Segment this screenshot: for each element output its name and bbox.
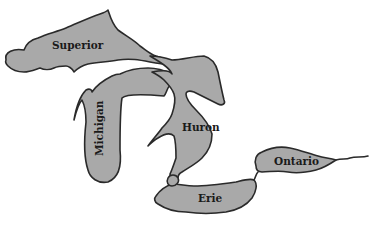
label-ontario: Ontario — [274, 155, 319, 167]
label-superior: Superior — [52, 39, 104, 51]
lake-huron — [148, 56, 225, 179]
label-michigan: Michigan — [93, 100, 105, 156]
niagara-river — [254, 172, 258, 180]
lake-st-clair — [167, 175, 178, 186]
label-huron: Huron — [182, 121, 220, 133]
label-erie: Erie — [198, 192, 223, 204]
great-lakes-map: Superior Michigan Huron Erie Ontario — [0, 0, 377, 225]
lake-michigan — [74, 68, 173, 182]
st-lawrence-river — [336, 156, 368, 160]
